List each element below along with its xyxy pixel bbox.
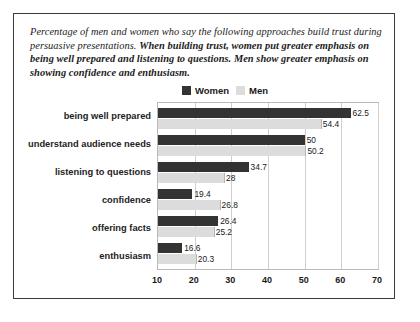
bar-row: 26.8 [158,200,378,210]
chart-frame: Percentage of men and women who say the … [13,13,395,299]
bar-men[interactable] [158,254,197,264]
axis-tick-label: 50 [299,275,309,285]
category-label-2: listening to questions [14,158,157,186]
legend-swatch-women-icon [182,86,191,95]
category-text: being well prepared [64,111,151,121]
chart-legend: Women Men [14,85,396,96]
bar-row: 28 [158,173,378,183]
bar-women[interactable] [158,216,218,226]
bar-men[interactable] [158,146,306,156]
bar-value-label: 28 [224,173,235,183]
bar-row: 25.2 [158,227,378,237]
bar-row: 34.7 [158,162,378,172]
bar-row: 20.3 [158,254,378,264]
plot-area: 62.554.45050.234.72819.426.826.425.216.6… [157,102,379,270]
bar-value-label: 50 [305,135,316,145]
plot-wrapper: being well prepared understand audience … [14,102,396,292]
bar-group: 34.728 [158,161,378,185]
axis-tick-label: 30 [225,275,235,285]
bar-women[interactable] [158,189,192,199]
bar-women[interactable] [158,162,249,172]
bar-value-label: 50.2 [305,146,323,156]
category-label-4: offering facts [14,214,157,242]
bar-group: 16.620.3 [158,242,378,266]
category-label-5: enthusiasm [14,242,157,270]
bar-women[interactable] [158,243,182,253]
bar-men[interactable] [158,173,225,183]
bar-row: 50.2 [158,146,378,156]
bar-value-label: 26.8 [220,200,238,210]
bar-group: 26.425.2 [158,215,378,239]
category-text: understand audience needs [28,139,151,149]
bar-group: 62.554.4 [158,107,378,131]
gridline [378,103,379,269]
bar-women[interactable] [158,135,305,145]
caption-text: Percentage of men and women who say the … [30,25,382,79]
bar-row: 26.4 [158,216,378,226]
legend-entry-women: Women [182,85,229,96]
bar-value-label: 54.4 [321,119,339,129]
category-text: enthusiasm [99,251,151,261]
bar-group: 19.426.8 [158,188,378,212]
bar-value-label: 19.4 [192,189,210,199]
bar-men[interactable] [158,200,221,210]
bar-row: 54.4 [158,119,378,129]
axis-tick-label: 10 [152,275,162,285]
bar-row: 19.4 [158,189,378,199]
bar-men[interactable] [158,227,215,237]
bar-value-label: 20.3 [196,254,214,264]
category-axis: being well prepared understand audience … [14,102,157,270]
axis-tick-label: 20 [189,275,199,285]
value-axis: 10203040506070 [157,271,379,289]
bar-row: 50 [158,135,378,145]
legend-label-women: Women [195,85,229,96]
category-text: confidence [102,195,151,205]
axis-tick-label: 60 [335,275,345,285]
legend-entry-men: Men [236,85,268,96]
bar-value-label: 62.5 [351,108,369,118]
bar-women[interactable] [158,108,351,118]
bar-men[interactable] [158,119,322,129]
bar-value-label: 25.2 [214,227,232,237]
bar-row: 16.6 [158,243,378,253]
legend-label-men: Men [249,85,268,96]
axis-tick-label: 70 [372,275,382,285]
bar-group: 5050.2 [158,134,378,158]
category-label-0: being well prepared [14,102,157,130]
legend-swatch-men-icon [236,86,245,95]
bar-groups: 62.554.45050.234.72819.426.826.425.216.6… [158,103,378,269]
axis-tick-label: 40 [262,275,272,285]
category-label-3: confidence [14,186,157,214]
bar-row: 62.5 [158,108,378,118]
category-label-1: understand audience needs [14,130,157,158]
chart-page: Percentage of men and women who say the … [0,0,420,322]
category-text: offering facts [92,223,151,233]
bar-value-label: 16.6 [182,243,200,253]
bar-value-label: 26.4 [218,216,236,226]
bar-value-label: 34.7 [249,162,267,172]
category-text: listening to questions [55,167,151,177]
